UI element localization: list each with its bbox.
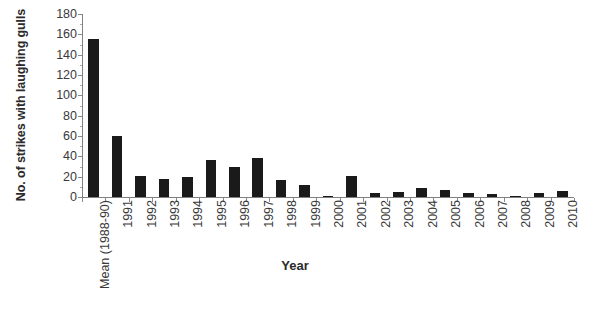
y-tick-label: 180 [56,7,77,21]
x-tick-label: 1995 [216,200,229,228]
bar [557,191,568,197]
x-tick-label: 2009 [544,200,557,228]
y-tick-label: 0 [70,190,77,204]
bar [252,158,263,197]
y-tick-label: 40 [63,149,77,163]
y-tick-label: 140 [56,48,77,62]
bar [229,167,240,198]
x-tick-label: 2010 [567,200,580,228]
bar [88,39,99,197]
bar-series [82,14,574,197]
y-tick-label: 100 [56,88,77,102]
x-tick-label: 1992 [146,200,159,228]
bar [299,185,310,197]
x-tick-label: 2007 [497,200,510,228]
bar [510,196,521,197]
x-axis-title: Year [0,258,590,273]
x-tick-label: 1999 [310,200,323,228]
x-tick-label: 2001 [356,200,369,228]
x-tick-label: 1996 [239,200,252,228]
x-tick-label: 2008 [520,200,533,228]
bar [182,177,193,197]
bar [135,176,146,197]
x-tick-label: 2000 [333,200,346,228]
x-tick-label: 1993 [169,200,182,228]
bar [393,192,404,197]
bar [416,188,427,197]
x-axis-tick-labels: Mean (1988-90)19911992199319941995199619… [82,200,574,288]
bar [206,160,217,197]
y-tick-label: 120 [56,68,77,82]
y-axis-title-container: No. of strikes with laughing gulls [6,0,36,210]
x-tick-label: 2006 [474,200,487,228]
x-tick-label: 2003 [403,200,416,228]
x-tick-label: 1994 [192,200,205,228]
x-tick-label: 1991 [122,200,135,228]
x-tick-label: 2005 [450,200,463,228]
bar [534,193,545,197]
y-axis-title: No. of strikes with laughing gulls [14,9,28,201]
bar [112,136,123,197]
bar [440,190,451,197]
x-tick-label: Mean (1988-90) [99,200,112,289]
x-tick-label: 2004 [427,200,440,228]
y-axis-tick-labels: 020406080100120140160180 [36,7,80,201]
y-tick-label: 20 [63,170,77,184]
y-tick-label: 60 [63,129,77,143]
x-tick-label: 2002 [380,200,393,228]
bar-chart-figure: No. of strikes with laughing gulls 02040… [0,0,590,329]
bar [323,196,334,197]
bar [276,180,287,197]
bar [487,194,498,197]
x-tick-label: 1998 [286,200,299,228]
y-tick-label: 80 [63,109,77,123]
y-tick-label: 160 [56,27,77,41]
bar [159,179,170,197]
bar [346,176,357,197]
bar [463,193,474,197]
x-axis-line [82,197,574,198]
bar [370,193,381,197]
x-tick-label: 1997 [263,200,276,228]
